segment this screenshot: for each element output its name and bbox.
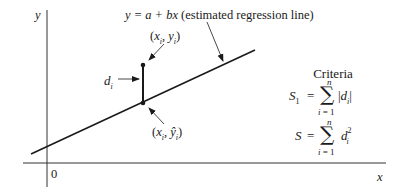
criteria-title: Criteria (298, 66, 368, 82)
regression-equation: y = a + bx (125, 8, 178, 22)
x-axis-label: x (377, 171, 383, 184)
deviation-label: di (104, 74, 113, 91)
fitted-point-label: (xi, ŷi) (152, 126, 182, 142)
regression-line-arrow (207, 22, 223, 61)
observed-point (141, 63, 146, 68)
observed-point-label: (xi, yi) (150, 30, 180, 46)
y-axis-label: y (35, 9, 41, 22)
fitted-point (141, 101, 146, 106)
regression-line-label: y = a + bx (estimated regression line) (125, 9, 314, 22)
regression-description: (estimated regression line) (181, 8, 314, 22)
observed-point-arrow (149, 44, 164, 60)
fitted-point-arrow (149, 108, 164, 124)
origin-label: 0 (51, 168, 57, 181)
